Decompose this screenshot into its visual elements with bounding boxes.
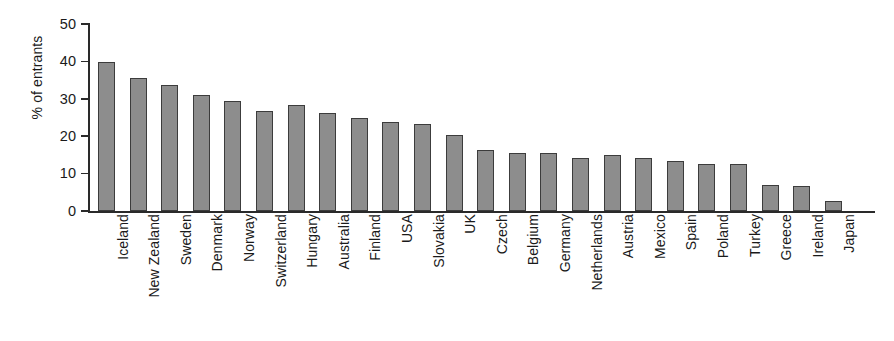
x-axis-tick-label: Japan: [839, 214, 859, 334]
x-axis-tick-label-text: Spain: [681, 214, 701, 334]
x-axis-tick-label-text: Mexico: [650, 214, 670, 334]
y-axis-tick-label: 40: [36, 53, 76, 69]
x-axis-tick-label-text: Turkey: [745, 214, 765, 334]
x-axis-tick-label-text: Hungary: [302, 214, 322, 334]
x-axis-tick-label: Denmark: [207, 214, 227, 334]
bar: [382, 122, 399, 211]
x-axis-tick-label-text: Denmark: [207, 214, 227, 334]
y-axis-tick-label: 50: [36, 16, 76, 32]
y-axis-tick-label: 10: [36, 166, 76, 182]
y-axis-tick-label: 0: [36, 203, 76, 219]
bar: [161, 85, 178, 211]
y-axis-tick-value: 30: [36, 92, 76, 107]
y-axis-tick-mark: [81, 135, 88, 137]
bar: [762, 185, 779, 211]
x-axis-tick-label: Iceland: [113, 214, 133, 334]
x-axis-tick-label: Belgium: [523, 214, 543, 334]
x-axis-tick-label: Netherlands: [587, 214, 607, 334]
x-axis-tick-label: Sweden: [176, 214, 196, 334]
bar: [414, 124, 431, 211]
bar: [604, 155, 621, 211]
y-axis-tick-value: 20: [36, 129, 76, 144]
x-axis-tick-label: Australia: [334, 214, 354, 334]
bar: [477, 150, 494, 211]
x-axis-tick-label: Ireland: [808, 214, 828, 334]
x-axis-tick-label-text: Belgium: [523, 214, 543, 334]
x-axis-tick-label-text: Greece: [776, 214, 796, 334]
bar: [540, 153, 557, 211]
bar: [698, 164, 715, 211]
y-axis-tick-mark: [81, 23, 88, 25]
x-axis-tick-label: Switzerland: [271, 214, 291, 334]
bar: [572, 158, 589, 211]
y-axis-tick-label: 30: [36, 91, 76, 107]
x-axis-tick-label: Poland: [713, 214, 733, 334]
x-axis-tick-label-text: Ireland: [808, 214, 828, 334]
x-axis-line: [88, 211, 875, 213]
x-axis-tick-label-text: Australia: [334, 214, 354, 334]
bar: [98, 62, 115, 211]
x-axis-tick-label-text: Germany: [555, 214, 575, 334]
x-axis-tick-label: Slovakia: [429, 214, 449, 334]
bar: [130, 78, 147, 211]
x-axis-tick-label-text: Czech: [492, 214, 512, 334]
x-axis-tick-label: Hungary: [302, 214, 322, 334]
x-axis-tick-label: Greece: [776, 214, 796, 334]
y-axis-tick-mark: [81, 98, 88, 100]
x-axis-tick-label-text: Iceland: [113, 214, 133, 334]
y-axis-tick-value: 50: [36, 17, 76, 32]
x-axis-tick-label: Germany: [555, 214, 575, 334]
y-axis-tick-value: 0: [36, 204, 76, 219]
x-axis-tick-label: Czech: [492, 214, 512, 334]
x-axis-tick-label: Austria: [618, 214, 638, 334]
y-axis-ticks: 01020304050: [0, 0, 88, 341]
bar: [224, 101, 241, 211]
x-axis-tick-label-text: Slovakia: [429, 214, 449, 334]
y-axis-tick-label: 20: [36, 128, 76, 144]
bar: [193, 95, 210, 211]
x-axis-tick-label: USA: [397, 214, 417, 334]
x-axis-labels: IcelandNew ZealandSwedenDenmarkNorwaySwi…: [88, 214, 875, 341]
x-axis-tick-label-text: New Zealand: [144, 214, 164, 334]
x-axis-tick-label: Mexico: [650, 214, 670, 334]
x-axis-tick-label-text: Poland: [713, 214, 733, 334]
bar-chart-figure: % of entrants 01020304050 IcelandNew Zea…: [0, 0, 894, 341]
x-axis-tick-label: Turkey: [745, 214, 765, 334]
x-axis-tick-label: New Zealand: [144, 214, 164, 334]
bar: [256, 111, 273, 211]
y-axis-tick-mark: [81, 173, 88, 175]
x-axis-tick-label-text: Switzerland: [271, 214, 291, 334]
y-axis-tick-value: 40: [36, 54, 76, 69]
x-axis-tick-label-text: Finland: [365, 214, 385, 334]
bar: [509, 153, 526, 211]
x-axis-tick-label: Finland: [365, 214, 385, 334]
y-axis-tick-mark: [81, 210, 88, 212]
x-axis-tick-label-text: Austria: [618, 214, 638, 334]
plot-area: [88, 24, 875, 211]
bar: [635, 158, 652, 211]
x-axis-tick-label-text: Norway: [239, 214, 259, 334]
x-axis-tick-label-text: USA: [397, 214, 417, 334]
bar: [288, 105, 305, 211]
x-axis-tick-label: UK: [460, 214, 480, 334]
bar: [825, 201, 842, 211]
bar: [793, 186, 810, 211]
x-axis-tick-label-text: Japan: [839, 214, 859, 334]
bar: [667, 161, 684, 211]
bar: [351, 118, 368, 211]
x-axis-tick-label: Norway: [239, 214, 259, 334]
x-axis-tick-label-text: Sweden: [176, 214, 196, 334]
y-axis-tick-value: 10: [36, 166, 76, 181]
bar: [730, 164, 747, 211]
x-axis-tick-label-text: UK: [460, 214, 480, 334]
x-axis-tick-label-text: Netherlands: [587, 214, 607, 334]
x-axis-tick-label: Spain: [681, 214, 701, 334]
bar: [446, 135, 463, 211]
bar: [319, 113, 336, 211]
y-axis-tick-mark: [81, 61, 88, 63]
